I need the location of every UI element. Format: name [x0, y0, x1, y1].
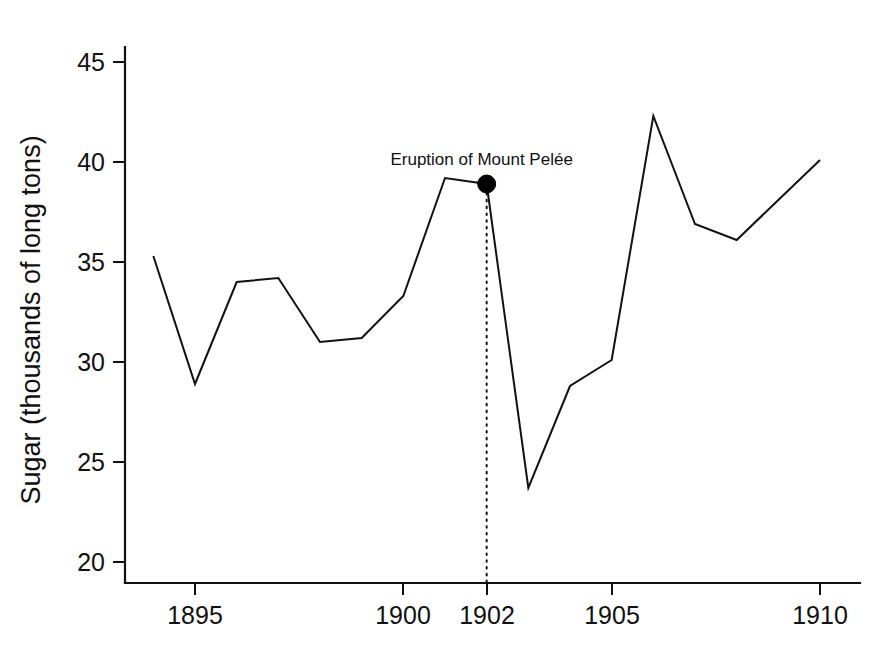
y-tick-label: 25	[77, 448, 105, 476]
y-tick-40: 40	[77, 148, 125, 176]
chart-canvas: Sugar (thousands of long tons) 20 25 30 …	[0, 0, 889, 656]
x-tick-label: 1910	[792, 601, 848, 629]
sugar-production-line-chart: Sugar (thousands of long tons) 20 25 30 …	[0, 0, 889, 656]
x-axis-ticks: 1895 1900 1902 1905 1910	[167, 583, 848, 629]
y-tick-label: 40	[77, 148, 105, 176]
y-tick-20: 20	[77, 548, 125, 576]
x-tick-1910: 1910	[792, 583, 848, 629]
y-axis-ticks: 20 25 30 35 40 45	[77, 48, 125, 576]
y-tick-label: 35	[77, 248, 105, 276]
y-tick-label: 30	[77, 348, 105, 376]
y-tick-25: 25	[77, 448, 125, 476]
x-tick-label: 1895	[167, 601, 223, 629]
x-tick-label: 1905	[584, 601, 640, 629]
y-tick-label: 20	[77, 548, 105, 576]
y-tick-35: 35	[77, 248, 125, 276]
x-tick-1895: 1895	[167, 583, 223, 629]
x-tick-label: 1900	[375, 601, 431, 629]
annotation-label: Eruption of Mount Pelée	[390, 150, 572, 169]
y-tick-45: 45	[77, 48, 125, 76]
x-tick-1900: 1900	[375, 583, 431, 629]
y-tick-30: 30	[77, 348, 125, 376]
y-axis-title: Sugar (thousands of long tons)	[16, 135, 46, 504]
x-tick-1902: 1902	[459, 583, 515, 629]
eruption-annotation: Eruption of Mount Pelée	[390, 150, 572, 583]
y-tick-label: 45	[77, 48, 105, 76]
x-tick-1905: 1905	[584, 583, 640, 629]
x-tick-label: 1902	[459, 601, 515, 629]
annotation-marker-dot	[478, 175, 496, 193]
